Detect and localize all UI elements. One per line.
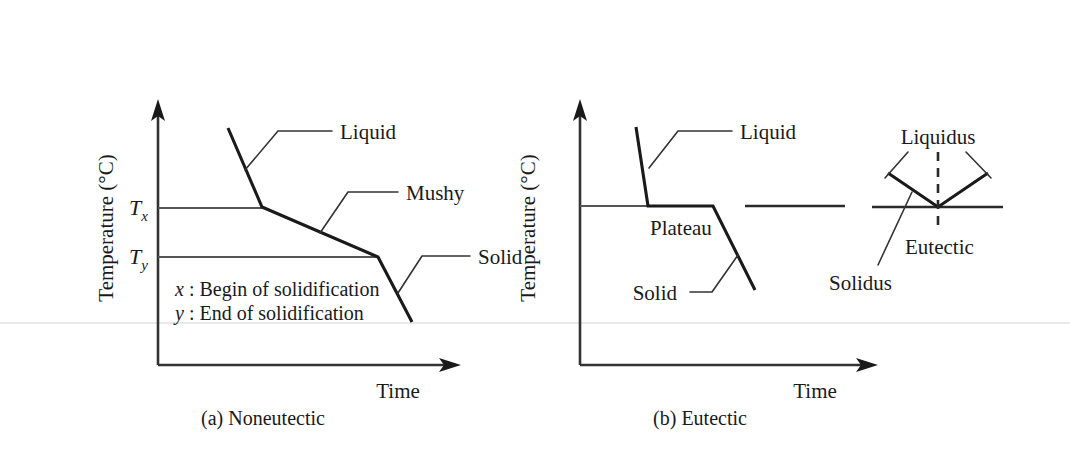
curve-label-liquid-a: Liquid bbox=[340, 120, 396, 144]
inset-label-solidus: Solidus bbox=[829, 271, 892, 295]
caption-panel-a: (a) Noneutectic bbox=[201, 407, 325, 430]
leader-solid-b bbox=[690, 255, 738, 292]
panel-noneutectic: Temperature (°C) Time Tx Ty Liquid Mushy… bbox=[94, 99, 523, 430]
leader-liquid-b bbox=[649, 131, 732, 168]
curve-label-liquid-b: Liquid bbox=[740, 120, 796, 144]
inset-label-eutectic: Eutectic bbox=[905, 235, 974, 259]
leader-liquid-a bbox=[245, 131, 332, 170]
inset-label-liquidus: Liquidus bbox=[901, 125, 976, 149]
curve-label-plateau-b: Plateau bbox=[650, 216, 712, 240]
cooling-curve-b bbox=[636, 127, 755, 290]
cooling-curves-figure: Temperature (°C) Time Tx Ty Liquid Mushy… bbox=[0, 0, 1070, 463]
x-axis-title-a: Time bbox=[376, 379, 420, 403]
tick-label-ty-subscript: y bbox=[139, 257, 148, 273]
legend-separator-y: : bbox=[184, 302, 200, 324]
curve-label-solid-b: Solid bbox=[633, 281, 678, 305]
curve-label-mushy-a: Mushy bbox=[406, 181, 465, 205]
eutectic-inset: Liquidus Solidus Eutectic bbox=[829, 125, 1003, 295]
legend-line-x: x : Begin of solidification bbox=[174, 278, 379, 301]
y-axis-title-b: Temperature (°C) bbox=[516, 154, 540, 301]
leader-solid-a bbox=[398, 256, 470, 293]
legend-symbol-x: x bbox=[174, 278, 184, 300]
legend-separator-x: : bbox=[184, 278, 200, 300]
figure-root: Temperature (°C) Time Tx Ty Liquid Mushy… bbox=[0, 0, 1070, 463]
tick-label-tx: Tx bbox=[129, 195, 148, 224]
tick-label-tx-subscript: x bbox=[140, 208, 148, 224]
tick-label-ty: Ty bbox=[129, 244, 148, 273]
legend-text-y: End of solidification bbox=[199, 302, 363, 324]
y-axis-title-a: Temperature (°C) bbox=[94, 154, 118, 301]
legend-text-x: Begin of solidification bbox=[199, 278, 379, 301]
legend-line-y: y : End of solidification bbox=[173, 302, 364, 325]
caption-panel-b: (b) Eutectic bbox=[653, 407, 747, 430]
leader-liquidus-right bbox=[966, 152, 991, 178]
legend-symbol-y: y bbox=[173, 302, 184, 325]
leader-mushy-a bbox=[320, 192, 398, 233]
panel-eutectic: Temperature (°C) Time Liquid Plateau Sol… bbox=[516, 99, 1003, 430]
x-axis-title-b: Time bbox=[793, 379, 837, 403]
leader-liquidus-left bbox=[885, 152, 908, 178]
